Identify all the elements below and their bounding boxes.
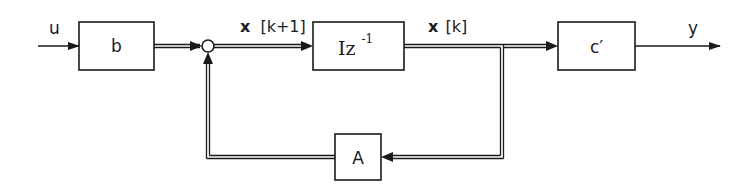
- block-A: A: [335, 134, 381, 180]
- sum-to-delay-arrow: [214, 41, 313, 51]
- block-b: b: [79, 22, 154, 70]
- state-vector: x: [428, 17, 439, 36]
- block-A-label: A: [352, 148, 364, 168]
- block-diagram: u b x [k+1] Iz -1: [0, 0, 751, 189]
- state-label: x [k]: [428, 17, 467, 36]
- output-label-y: y: [688, 18, 698, 38]
- block-c: c′: [558, 22, 635, 70]
- delay-label-main: Iz: [338, 37, 356, 59]
- summing-junction-icon: [202, 40, 214, 52]
- block-b-label: b: [111, 36, 122, 56]
- block-delay: Iz -1: [313, 22, 404, 70]
- svg-text:x [k+1]: x [k+1]: [240, 17, 306, 36]
- state-index: [k]: [445, 17, 467, 36]
- next-state-index: [k+1]: [260, 17, 305, 36]
- delay-label-sup: -1: [362, 32, 374, 46]
- delay-to-c-arrow: [404, 41, 558, 51]
- svg-text:x [k]: x [k]: [428, 17, 467, 36]
- block-c-label: c′: [590, 37, 603, 57]
- input-label-u: u: [49, 18, 60, 38]
- b-to-sum-arrow: [154, 41, 202, 51]
- next-state-label: x [k+1]: [240, 17, 306, 36]
- next-state-vector: x: [240, 17, 251, 36]
